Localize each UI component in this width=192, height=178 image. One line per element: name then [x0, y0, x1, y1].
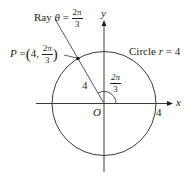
paren-close: ) — [53, 46, 58, 62]
angle-fraction: 2π 3 — [110, 73, 121, 94]
ray-label: Ray θ = 2π 3 — [34, 8, 83, 29]
ray-angle-fraction: 2π 3 — [72, 8, 83, 29]
point-theta-fraction: 2π 3 — [42, 44, 53, 65]
origin-label: O — [93, 107, 101, 118]
ray-label-theta: θ — [54, 11, 59, 23]
point-leader-line — [64, 55, 77, 58]
x-axis-label: x — [176, 97, 181, 108]
point-r-value: 4, — [31, 47, 39, 59]
point-theta-num: 2π — [42, 44, 53, 55]
y-axis-arrow-icon — [102, 20, 107, 26]
circle-label-var: r — [159, 45, 163, 57]
ray-line — [55, 19, 104, 104]
x-intercept-label: 4 — [156, 107, 162, 118]
x-axis-arrow-icon — [167, 101, 173, 106]
point-p — [76, 57, 80, 61]
circle-label-eq: = 4 — [166, 45, 180, 57]
angle-label: 2π 3 — [110, 73, 121, 94]
angle-num: 2π — [110, 73, 121, 84]
segment-length-label: 4 — [82, 80, 88, 91]
ray-label-eq: = — [63, 11, 69, 23]
angle-den: 3 — [113, 84, 118, 94]
polar-diagram — [0, 0, 192, 178]
point-label: P =(4, 2π 3 ) — [10, 44, 58, 65]
ray-label-prefix: Ray — [34, 11, 52, 23]
y-axis-label: y — [101, 8, 106, 19]
circle-label: Circle r = 4 — [129, 46, 180, 57]
ray-angle-den: 3 — [75, 19, 80, 29]
ray-angle-num: 2π — [72, 8, 83, 19]
point-theta-den: 3 — [45, 55, 50, 65]
circle-label-prefix: Circle — [129, 45, 156, 57]
point-label-var: P — [10, 47, 17, 59]
